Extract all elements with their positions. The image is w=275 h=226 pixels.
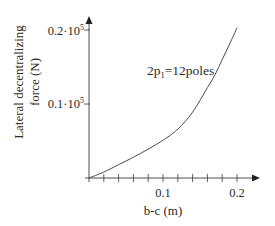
y-tick-label-0.1: 0.1·105 — [48, 96, 84, 111]
y-axis-title-line-1: Lateral decentralizing — [11, 25, 26, 139]
data-curve — [89, 28, 237, 178]
series-line-12poles — [89, 28, 237, 178]
chart: 0.2·105 0.1·105 0.1 0.2 b-c (m) Lateral … — [0, 0, 275, 226]
x-tick-label-0.1: 0.1 — [155, 186, 171, 200]
y-axis-title-line-2: force (N) — [27, 58, 42, 106]
y-tick-label-0.2: 0.2·105 — [48, 23, 84, 38]
y-axis-arrow-icon — [86, 16, 93, 24]
axes — [85, 16, 260, 182]
ticks — [84, 30, 237, 182]
curve-annotation: 2p1=12poles — [147, 63, 214, 80]
x-axis-arrow-icon — [252, 175, 260, 182]
x-tick-label-0.2: 0.2 — [229, 186, 245, 200]
x-axis-title: b-c (m) — [144, 203, 183, 218]
